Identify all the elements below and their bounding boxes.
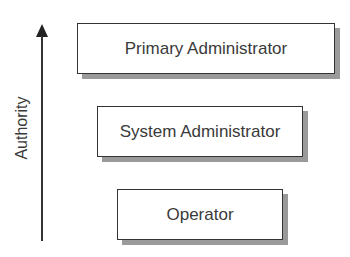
level-label: Operator — [166, 205, 233, 225]
level-system-administrator: System Administrator — [97, 106, 303, 157]
level-label: System Administrator — [120, 122, 281, 142]
authority-axis — [41, 36, 43, 241]
level-primary-administrator: Primary Administrator — [77, 23, 335, 74]
level-operator: Operator — [117, 189, 283, 240]
level-label: Primary Administrator — [125, 39, 287, 59]
axis-label: Authority — [13, 96, 31, 159]
